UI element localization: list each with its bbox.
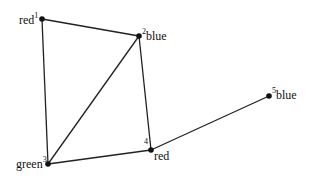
- node-5-label: 5blue: [272, 89, 297, 101]
- edge-1-3: [42, 19, 48, 164]
- node-5-color: blue: [276, 88, 297, 102]
- node-3-id: 3: [43, 155, 47, 164]
- node-1-color: red: [19, 13, 34, 27]
- node-2-id: 2: [142, 27, 146, 36]
- node-4-id-wrap: 4: [144, 140, 148, 152]
- node-1-id: 1: [34, 11, 38, 20]
- node-3-label: green3: [16, 158, 47, 170]
- node-4: [148, 147, 154, 153]
- edge-1-2: [42, 19, 139, 36]
- node-1-label: red1: [19, 14, 38, 26]
- node-5-id: 5: [272, 86, 276, 95]
- node-4-label: red: [154, 150, 169, 162]
- node-4-color: red: [154, 149, 169, 163]
- node-2: [136, 33, 142, 39]
- edge-4-5: [151, 96, 269, 150]
- node-2-color: blue: [146, 29, 167, 43]
- edge-2-4: [139, 36, 151, 150]
- edge-2-3: [48, 36, 139, 164]
- node-4-id: 4: [144, 137, 148, 146]
- edge-3-4: [48, 150, 151, 164]
- node-3-color: green: [16, 157, 43, 171]
- node-5: [266, 93, 272, 99]
- node-2-label: 2blue: [142, 30, 167, 42]
- node-1: [39, 16, 45, 22]
